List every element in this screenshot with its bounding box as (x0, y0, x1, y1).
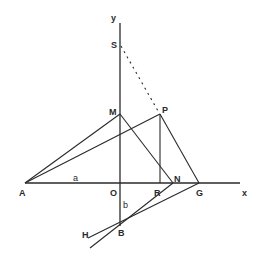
segment-PG (160, 114, 199, 183)
label-H: H (82, 230, 89, 240)
segment-GBH (88, 183, 199, 238)
label-G: G (196, 188, 203, 198)
segment-NB-extended (90, 183, 173, 248)
label-R: R (154, 188, 161, 198)
label-y-axis: y (111, 13, 116, 23)
segment-SP-dashed (121, 46, 158, 111)
label-M: M (109, 107, 117, 117)
label-b: b (123, 200, 128, 210)
segment-MN (120, 114, 173, 183)
label-a: a (73, 173, 78, 183)
label-A: A (19, 188, 26, 198)
label-N: N (174, 174, 181, 184)
label-x-axis: x (242, 188, 247, 198)
label-S: S (111, 40, 117, 50)
label-P: P (162, 105, 168, 115)
geometry-diagram: y S M P A a O R N G x b B H (0, 0, 259, 263)
label-O: O (110, 188, 117, 198)
label-B: B (118, 228, 125, 238)
segment-AP (25, 114, 160, 183)
